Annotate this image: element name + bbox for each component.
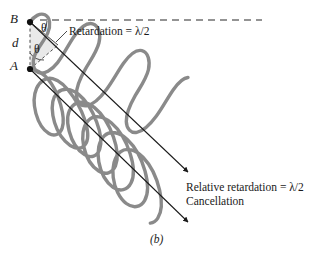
label-relative-retardation: Relative retardation = λ/2 (186, 181, 304, 195)
wave-from-a (30, 69, 161, 223)
figure-caption: (b) (150, 233, 163, 247)
label-theta-bottom: θ (34, 42, 40, 56)
label-point-b: B (10, 11, 18, 26)
diagram-canvas (0, 0, 314, 257)
label-spacing-d: d (12, 35, 19, 50)
source-point-b (27, 19, 33, 25)
figure-bragg-cancellation: B A d θ θ Retardation = λ/2 Relative ret… (0, 0, 314, 257)
ray-from-a[interactable] (30, 69, 188, 222)
label-theta-top: θ (41, 21, 47, 35)
label-cancellation: Cancellation (186, 195, 244, 209)
retardation-leader-line (56, 31, 67, 42)
label-retardation: Retardation = λ/2 (69, 25, 149, 39)
label-point-a: A (10, 58, 18, 73)
source-point-a (27, 66, 33, 72)
